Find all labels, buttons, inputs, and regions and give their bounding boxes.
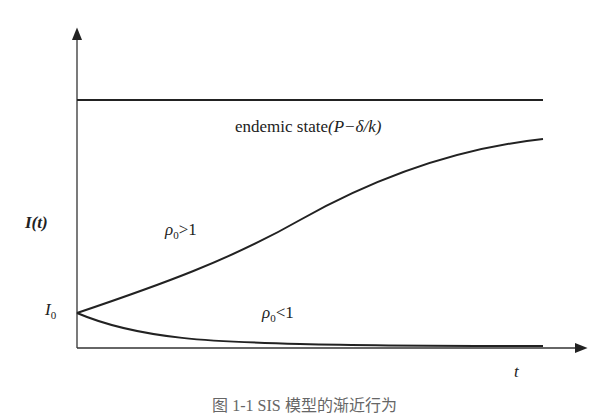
curve-rho-less-than-1 <box>77 313 543 346</box>
y-axis-label: I(t) <box>25 213 48 233</box>
curve-rho-greater-than-1 <box>77 139 543 313</box>
x-axis-label: t <box>514 362 519 382</box>
rho-greater-label: ρ0>1 <box>165 220 197 241</box>
rho-less-label: ρ0<1 <box>262 303 294 324</box>
figure-caption: 图 1-1 SIS 模型的渐近行为 <box>0 392 609 416</box>
endemic-state-label: endemic state(P−δ/k) <box>235 117 381 137</box>
i0-label: I0 <box>45 300 56 321</box>
